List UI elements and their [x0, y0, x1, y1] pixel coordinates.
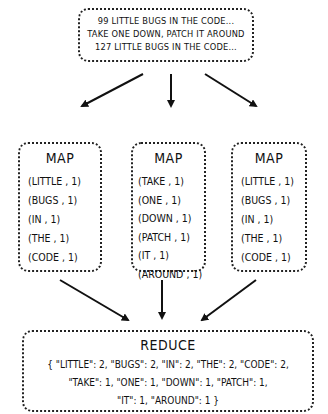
- map-pair: (TAKE , 1): [133, 172, 204, 191]
- reduce-box: REDUCE { "LITTLE": 2, "BUGS": 2, "IN": 2…: [22, 330, 314, 412]
- map-title: MAP: [233, 150, 305, 166]
- map-pair: (CODE , 1): [20, 248, 100, 267]
- arrow-input-to-map-3: [205, 74, 256, 106]
- map-pair: (IT , 1): [133, 246, 204, 265]
- arrow-input-to-map-1: [82, 74, 143, 106]
- map-title: MAP: [133, 150, 204, 166]
- map-pair: (BUGS , 1): [20, 191, 100, 210]
- input-text-box: 99 LITTLE BUGS IN THE CODE... TAKE ONE D…: [78, 8, 254, 62]
- map-box-1: MAP (LITTLE , 1) (BUGS , 1) (IN , 1) (TH…: [18, 142, 102, 272]
- input-line: 99 LITTLE BUGS IN THE CODE...: [86, 14, 246, 27]
- map-pair: (DOWN , 1): [133, 209, 204, 228]
- map-title: MAP: [20, 150, 100, 166]
- reduce-title: REDUCE: [24, 337, 312, 353]
- map-pair: (THE , 1): [233, 229, 305, 248]
- input-line: TAKE ONE DOWN, PATCH IT AROUND: [86, 27, 246, 40]
- reduce-line: "IT": 1, "AROUND": 1 }: [24, 392, 312, 410]
- map-pair: (THE , 1): [20, 229, 100, 248]
- map-pair: (CODE , 1): [233, 248, 305, 267]
- input-line: 127 LITTLE BUGS IN THE CODE...: [86, 40, 246, 53]
- map-pair: (LITTLE , 1): [233, 172, 305, 191]
- arrow-map-1-to-reduce: [60, 280, 128, 320]
- arrow-map-3-to-reduce: [202, 280, 256, 320]
- reduce-line: { "LITTLE": 2, "BUGS": 2, "IN": 2, "THE"…: [24, 356, 312, 374]
- map-box-2: MAP (TAKE , 1) (ONE , 1) (DOWN , 1) (PAT…: [131, 142, 206, 272]
- map-pair: (LITTLE , 1): [20, 172, 100, 191]
- map-pair: (PATCH , 1): [133, 228, 204, 247]
- reduce-line: "TAKE": 1, "ONE": 1, "DOWN": 1, "PATCH":…: [24, 374, 312, 392]
- map-pair: (IN , 1): [233, 210, 305, 229]
- map-pair: (IN , 1): [20, 210, 100, 229]
- map-pair: (BUGS , 1): [233, 191, 305, 210]
- map-pair: (AROUND , 1): [133, 265, 204, 284]
- map-box-3: MAP (LITTLE , 1) (BUGS , 1) (IN , 1) (TH…: [231, 142, 307, 272]
- map-pair: (ONE , 1): [133, 191, 204, 210]
